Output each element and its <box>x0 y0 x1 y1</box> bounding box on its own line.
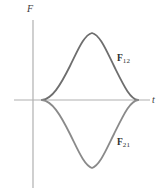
force-curve-f21 <box>42 100 138 168</box>
curve-label-f21: F21 <box>117 138 130 149</box>
curve-label-f12-subscript: 12 <box>123 57 130 65</box>
force-time-figure: F t F12 F21 <box>0 0 166 193</box>
time-axis-label: t <box>152 95 155 105</box>
curve-label-f12: F12 <box>117 54 130 65</box>
force-axis-label: F <box>27 4 33 14</box>
curve-label-f21-subscript: 21 <box>123 141 130 149</box>
plot-canvas <box>0 0 166 193</box>
force-curve-f12 <box>42 33 138 100</box>
